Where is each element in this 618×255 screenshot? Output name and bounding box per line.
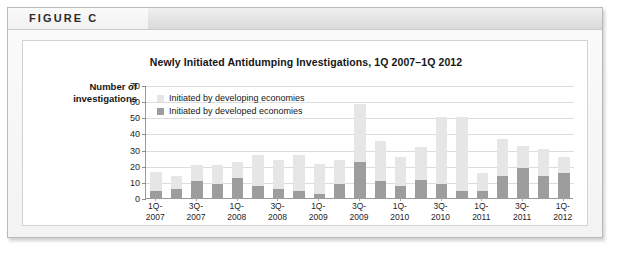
x-axis-tick-label-year: 2012	[543, 212, 583, 223]
bar-segment-developing	[314, 164, 325, 195]
bar-group	[273, 160, 284, 199]
bar-segment-developed	[232, 178, 243, 199]
y-axis-tick-label: 60	[130, 97, 140, 107]
x-axis-tick-label: 1Q-2010	[380, 201, 420, 223]
x-axis-tick-label-quarter: 3Q-	[421, 201, 461, 212]
x-axis-tick-label-quarter: 1Q-	[461, 201, 501, 212]
y-axis-tick-label: 20	[130, 162, 140, 172]
bar-segment-developing	[497, 139, 508, 176]
y-axis-tick-label: 10	[130, 178, 140, 188]
y-axis-tick-label: 50	[130, 113, 140, 123]
bar-segment-developed	[171, 189, 182, 199]
bar-segment-developing	[150, 172, 161, 191]
bar-group	[252, 155, 263, 199]
bar-group	[354, 104, 365, 199]
bar-segment-developed	[191, 181, 202, 199]
bar-segment-developing	[354, 104, 365, 162]
x-axis-tick-label: 1Q-2008	[217, 201, 257, 223]
bar-group	[436, 117, 447, 199]
figure-frame: FIGURE C Newly Initiated Antidumping Inv…	[7, 7, 603, 238]
bar-segment-developed	[314, 194, 325, 199]
bar-segment-developing	[191, 165, 202, 181]
bar-group	[497, 139, 508, 199]
bar-segment-developing	[232, 162, 243, 178]
chart-panel: Newly Initiated Antidumping Investigatio…	[22, 40, 588, 226]
x-axis-tick-label-year: 2008	[257, 212, 297, 223]
bar-segment-developed	[538, 176, 549, 199]
legend-item-label: Initiated by developing economies	[169, 93, 305, 103]
x-axis-tick-label: 3Q-2011	[502, 201, 542, 223]
bar-segment-developed	[497, 176, 508, 199]
x-axis-tick-label-quarter: 3Q-	[257, 201, 297, 212]
x-axis-tick-label-year: 2007	[135, 212, 175, 223]
y-axis-title: Number of investigations	[33, 81, 137, 105]
y-axis-title-line2: investigations	[73, 93, 137, 104]
x-axis-tick-label-year: 2009	[298, 212, 338, 223]
bar-group	[212, 165, 223, 199]
bar-segment-developed	[334, 184, 345, 199]
bar-segment-developing	[334, 160, 345, 184]
bar-group	[191, 165, 202, 199]
legend-item: Initiated by developed economies	[157, 105, 305, 117]
x-axis-tick-label-quarter: 3Q-	[502, 201, 542, 212]
x-axis-tick-label-year: 2007	[176, 212, 216, 223]
x-axis-tick-label-year: 2010	[380, 212, 420, 223]
bar-group	[334, 160, 345, 199]
bar-segment-developing	[395, 157, 406, 186]
x-axis-tick-label: 1Q-2009	[298, 201, 338, 223]
x-axis-tick-label: 3Q-2007	[176, 201, 216, 223]
x-axis-tick-label-year: 2011	[502, 212, 542, 223]
bar-segment-developed	[517, 168, 528, 199]
x-axis-tick-label: 1Q-2011	[461, 201, 501, 223]
bar-segment-developing	[558, 157, 569, 173]
bar-segment-developed	[375, 181, 386, 199]
bar-group	[314, 164, 325, 200]
bar-segment-developing	[415, 147, 426, 179]
x-axis-labels: 1Q-20073Q-20071Q-20083Q-20081Q-20093Q-20…	[145, 201, 573, 227]
bar-group	[558, 157, 569, 199]
x-axis-tick-label-quarter: 3Q-	[339, 201, 379, 212]
y-axis-tick	[142, 199, 146, 200]
bar-group	[232, 162, 243, 199]
bar-segment-developed	[558, 173, 569, 199]
bar-group	[395, 157, 406, 199]
bar-segment-developed	[252, 186, 263, 199]
x-axis-tick-label-quarter: 1Q-	[298, 201, 338, 212]
bar-segment-developed	[415, 180, 426, 199]
y-axis-tick-label: 70	[130, 81, 140, 91]
bar-group	[517, 146, 528, 199]
bar-segment-developing	[252, 155, 263, 186]
bar-segment-developed	[456, 191, 467, 199]
bar-segment-developing	[436, 117, 447, 185]
figure-header-band: FIGURE C	[8, 8, 602, 30]
bar-segment-developing	[375, 141, 386, 181]
bar-group	[375, 141, 386, 199]
bar-segment-developed	[273, 189, 284, 199]
bar-segment-developing	[273, 160, 284, 189]
bar-segment-developed	[212, 184, 223, 199]
x-axis-tick-label-quarter: 1Q-	[543, 201, 583, 212]
figure-label: FIGURE C	[29, 12, 98, 24]
bar-group	[150, 172, 161, 199]
x-axis-tick-label-year: 2008	[217, 212, 257, 223]
legend-swatch-icon	[157, 95, 164, 102]
x-axis-tick-label-quarter: 3Q-	[176, 201, 216, 212]
bar-segment-developed	[293, 191, 304, 199]
chart-legend: Initiated by developing economiesInitiat…	[157, 92, 305, 118]
chart-title: Newly Initiated Antidumping Investigatio…	[23, 56, 589, 68]
bar-segment-developing	[477, 173, 488, 191]
x-axis-tick-label-year: 2009	[339, 212, 379, 223]
x-axis-tick-label: 3Q-2008	[257, 201, 297, 223]
bar-group	[456, 117, 467, 199]
bar-segment-developing	[212, 165, 223, 184]
bar-segment-developing	[517, 146, 528, 169]
x-axis-tick-label-quarter: 1Q-	[217, 201, 257, 212]
x-axis-tick-label: 1Q-2012	[543, 201, 583, 223]
legend-item: Initiated by developing economies	[157, 92, 305, 104]
bar-segment-developed	[436, 184, 447, 199]
bar-segment-developed	[354, 162, 365, 199]
y-axis-tick-label: 30	[130, 146, 140, 156]
bar-segment-developing	[293, 155, 304, 191]
bar-group	[171, 176, 182, 199]
x-axis-tick-label-quarter: 1Q-	[380, 201, 420, 212]
